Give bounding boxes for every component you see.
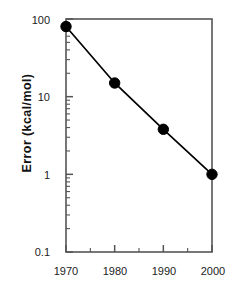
y-tick-label: 1 [44, 170, 50, 181]
x-tick-label-2000: 2000 [190, 266, 236, 277]
y-tick-label: 100 [32, 15, 50, 26]
x-tick-label-1990: 1990 [141, 266, 187, 277]
data-line [66, 27, 212, 175]
y-tick-10: 10 [4, 92, 50, 103]
data-points [61, 21, 217, 179]
y-tick-0.1: 0.1 [4, 247, 50, 258]
x-tick-label-1980: 1980 [92, 266, 138, 277]
y-tick-label: 0.1 [35, 247, 50, 258]
axis-ticks [66, 19, 212, 252]
y-tick-100: 100 [4, 15, 50, 26]
y-tick-1: 1 [4, 170, 50, 181]
plot-frame [66, 19, 212, 252]
y-tick-label: 10 [38, 92, 50, 103]
chart-figure: Error (kcal/mol) 100 10 1 0.1 1970 1980 … [0, 0, 248, 298]
x-tick-label-1970: 1970 [43, 266, 89, 277]
